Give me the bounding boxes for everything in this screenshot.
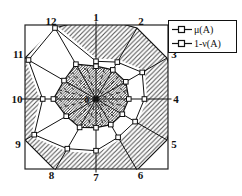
- axis-label-9: 9: [15, 138, 21, 150]
- axis-label-11: 11: [13, 48, 23, 60]
- nu-marker-4: [142, 97, 147, 102]
- mu-marker-11: [62, 78, 67, 83]
- axis-label-2: 2: [138, 15, 144, 27]
- legend-item-nu: 1-ν(A): [172, 37, 234, 50]
- mu-marker-10: [51, 97, 56, 102]
- center-dot: [94, 97, 98, 101]
- legend: μ(A) 1-ν(A): [168, 20, 237, 53]
- legend-label-nu: 1-ν(A): [194, 38, 221, 49]
- nu-marker-8: [65, 146, 70, 151]
- nu-marker-5: [133, 119, 138, 124]
- mu-marker-2: [111, 68, 116, 73]
- mu-marker-8: [77, 125, 82, 130]
- nu-marker-11: [26, 58, 31, 63]
- axis-label-4: 4: [173, 93, 179, 105]
- mu-marker-6: [109, 122, 114, 127]
- square-marker-icon: [172, 25, 192, 34]
- square-marker-icon: [172, 39, 192, 48]
- mu-marker-3: [124, 80, 129, 85]
- axis-label-7: 7: [93, 171, 99, 183]
- radar-figure: 123456789101112 0 μ(A) 1-ν(A): [0, 0, 242, 196]
- nu-marker-9: [32, 132, 37, 137]
- center-zero-label: 0: [85, 95, 90, 105]
- nu-marker-3: [140, 70, 145, 75]
- legend-item-mu: μ(A): [172, 23, 234, 36]
- axis-label-1: 1: [93, 11, 99, 23]
- mu-marker-12: [74, 62, 79, 67]
- nu-marker-2: [115, 60, 120, 65]
- mu-marker-1: [94, 64, 99, 69]
- axis-label-12: 12: [46, 15, 58, 27]
- nu-marker-7: [94, 148, 99, 153]
- axis-label-10: 10: [12, 93, 24, 105]
- axis-label-8: 8: [49, 169, 55, 181]
- legend-label-mu: μ(A): [194, 24, 213, 35]
- axis-label-5: 5: [171, 138, 177, 150]
- mu-marker-7: [94, 125, 99, 130]
- mu-marker-4: [127, 97, 132, 102]
- nu-marker-10: [40, 97, 45, 102]
- nu-marker-6: [116, 135, 121, 140]
- axis-label-6: 6: [138, 169, 144, 181]
- nu-marker-1: [94, 59, 99, 64]
- mu-marker-9: [64, 114, 69, 119]
- mu-marker-5: [120, 112, 125, 117]
